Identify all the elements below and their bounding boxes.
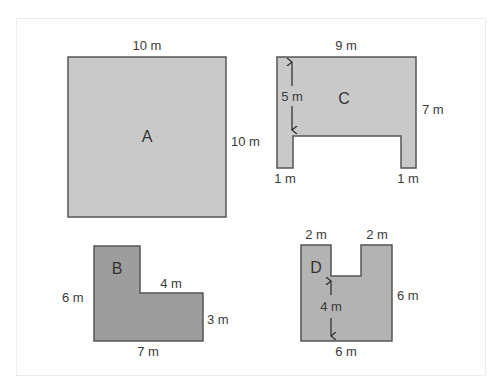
shape-b-step-dimension: 4 m (160, 276, 182, 291)
shape-d-label: D (310, 259, 322, 276)
shape-d-top-left-dimension: 2 m (305, 227, 327, 242)
shape-d-right-dimension: 6 m (397, 288, 419, 303)
shape-a-top-dimension: 10 m (133, 38, 162, 53)
shape-c-top-dimension: 9 m (335, 38, 357, 53)
shape-c-left-leg-dimension: 1 m (274, 171, 296, 186)
shape-a: A 10 m 10 m (68, 38, 260, 217)
shape-d: D 2 m 2 m 6 m 6 m 4 m (301, 227, 419, 359)
shape-a-label: A (142, 128, 153, 145)
shape-d-top-right-dimension: 2 m (366, 227, 388, 242)
shape-c-right-dimension: 7 m (422, 102, 444, 117)
shape-c-inner-height-dimension: 5 m (281, 89, 303, 104)
shape-c-label: C (338, 90, 350, 107)
area-shapes-diagram: A 10 m 10 m C 9 m 7 m 5 m 1 m 1 m B 6 m … (0, 0, 494, 381)
shape-c-right-leg-dimension: 1 m (397, 171, 419, 186)
shape-b: B 6 m 4 m 3 m 7 m (62, 246, 229, 359)
shape-b-bottom-dimension: 7 m (137, 344, 159, 359)
shape-a-right-dimension: 10 m (231, 134, 260, 149)
shape-b-left-dimension: 6 m (62, 290, 84, 305)
shape-b-label: B (112, 260, 123, 277)
shape-d-bottom-dimension: 6 m (335, 344, 357, 359)
shape-d-inner-height-dimension: 4 m (320, 299, 342, 314)
shape-b-right-dimension: 3 m (207, 312, 229, 327)
shape-c: C 9 m 7 m 5 m 1 m 1 m (274, 38, 444, 186)
